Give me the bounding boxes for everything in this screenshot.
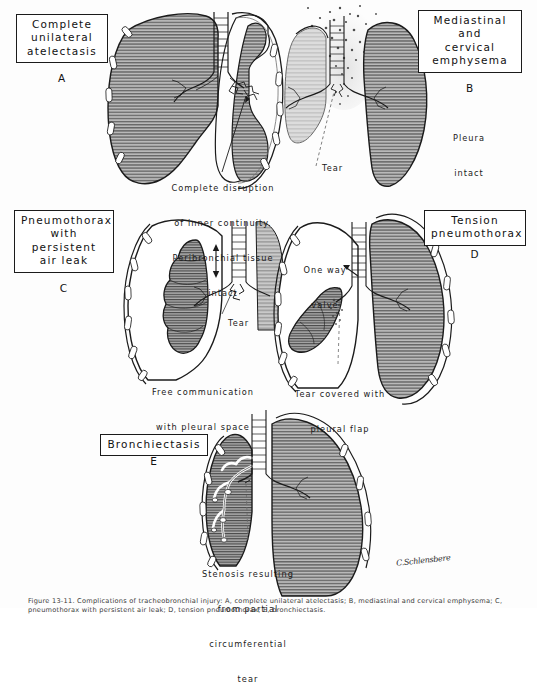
note-line: of inner continuity. <box>148 218 298 230</box>
note-line: valve <box>294 300 356 312</box>
note-line: circumferential <box>186 639 310 651</box>
panel-b-artwork <box>285 5 427 186</box>
panel-d-pleural-flap-note: Tear covered with pleural flap <box>274 366 406 459</box>
left-lung-collapsed <box>108 14 218 184</box>
panel-e-title-line-1: Bronchiectasis <box>107 438 201 451</box>
panel-b-title-line-3: cervical <box>425 41 515 54</box>
note-line: Peribronchial tissue <box>148 253 298 265</box>
panel-c-title-line-1: Pneumothorax <box>21 214 107 227</box>
figure-caption: Figure 13-11. Complications of tracheobr… <box>28 597 520 615</box>
note-line: pleural flap <box>274 424 406 436</box>
panel-e-letter: E <box>100 455 208 467</box>
panel-a-title-box: Complete unilateral atelectasis <box>16 14 108 63</box>
panel-a-disruption-note: Complete disruption of inner continuity.… <box>148 160 298 323</box>
panel-e-title-box: Bronchiectasis <box>100 434 208 456</box>
panel-a-letter: A <box>16 72 108 84</box>
panel-c-title-line-3: persistent <box>21 241 107 254</box>
note-line: tear <box>186 674 310 686</box>
panel-a-title-line-3: atelectasis <box>23 45 101 58</box>
panel-b-title-box: Mediastinal and cervical emphysema <box>418 10 522 73</box>
note-line: Tear covered with <box>274 389 406 401</box>
panel-c-title-line-2: with <box>21 227 107 240</box>
panel-b-letter: B <box>418 82 522 94</box>
note-line: One way <box>294 265 356 277</box>
right-lung-a <box>232 23 268 181</box>
panel-e-stenosis-note: Stenosis resulting from partial circumfe… <box>186 546 310 686</box>
note-line: intact <box>432 168 506 180</box>
panel-b-title-line-4: emphysema <box>425 54 515 67</box>
panel-c-title-box: Pneumothorax with persistent air leak <box>14 210 114 273</box>
left-lung-b <box>285 28 326 143</box>
panel-d-one-way-valve-label: One way valve <box>294 242 356 335</box>
panel-d-title-line-1: Tension <box>431 214 519 227</box>
panel-c-letter: C <box>14 282 114 294</box>
panel-d-title-box: Tension pneumothorax <box>424 210 526 246</box>
panel-d-title-line-2: pneumothorax <box>431 227 519 240</box>
panel-c-title-line-4: air leak <box>21 254 107 267</box>
panel-d-letter: D <box>424 248 526 260</box>
panel-b-pleura-note: Pleura intact <box>432 110 506 203</box>
note-line: Pleura <box>432 133 506 145</box>
panel-b-title-line-1: Mediastinal <box>425 14 515 27</box>
note-line: intact <box>148 288 298 300</box>
note-line: Stenosis resulting <box>186 569 310 581</box>
panel-b-tear-label: Tear <box>322 163 343 175</box>
note-line: Complete disruption <box>148 183 298 195</box>
panel-c-tear-label: Tear <box>228 318 249 330</box>
panel-a-title-line-1: Complete <box>23 18 101 31</box>
panel-a-title-line-2: unilateral <box>23 31 101 44</box>
note-line: with pleural space <box>128 422 278 434</box>
note-line: Free communication <box>128 387 278 399</box>
panel-b-title-line-2: and <box>425 27 515 40</box>
